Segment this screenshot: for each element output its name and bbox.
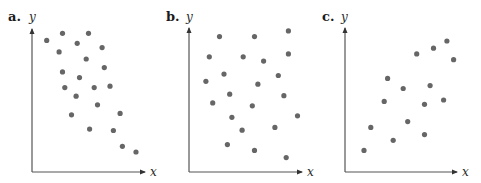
scatter-plots-figure: a. y x b. y x c. y x [0, 0, 481, 183]
data-point-c-11 [414, 51, 419, 56]
data-point-b-7 [221, 72, 226, 77]
scatter-panel-b: b. y x [166, 9, 314, 179]
data-point-b-19 [225, 142, 230, 147]
y-axis-label-a: y [28, 10, 36, 24]
data-point-b-0 [217, 34, 222, 39]
x-axis-label-a: x [150, 165, 157, 179]
data-point-a-15 [69, 112, 74, 117]
data-point-c-9 [428, 83, 433, 88]
data-point-c-4 [385, 76, 390, 81]
data-point-a-18 [111, 128, 116, 133]
data-point-b-21 [284, 155, 289, 160]
data-point-c-6 [405, 119, 410, 124]
panel-label-a: a. [8, 9, 21, 24]
data-point-b-10 [276, 73, 281, 78]
data-point-c-0 [361, 148, 366, 153]
data-point-b-15 [229, 115, 234, 120]
panel-label-c: c. [322, 9, 334, 24]
data-point-a-16 [118, 111, 123, 116]
data-point-a-3 [57, 49, 62, 54]
data-point-c-2 [391, 138, 396, 143]
data-point-a-1 [60, 31, 65, 36]
data-point-b-18 [272, 125, 277, 130]
data-point-a-2 [86, 31, 91, 36]
scatter-panel-c: c. y x [322, 9, 469, 179]
data-point-b-12 [210, 100, 215, 105]
data-point-a-13 [74, 94, 79, 99]
data-point-b-5 [261, 59, 266, 64]
data-point-b-4 [241, 54, 246, 59]
data-point-a-14 [95, 102, 100, 107]
x-axis-arrow-icon [452, 170, 458, 175]
data-point-b-13 [250, 103, 255, 108]
data-point-a-5 [100, 45, 105, 50]
data-point-a-0 [44, 38, 49, 43]
data-point-c-14 [451, 57, 456, 62]
data-point-c-10 [441, 97, 446, 102]
y-axis-arrow-icon [343, 27, 348, 33]
data-point-a-4 [75, 41, 80, 46]
y-axis-arrow-icon [187, 27, 192, 33]
y-axis-label-b: y [185, 10, 193, 24]
data-point-a-6 [84, 56, 89, 61]
data-point-b-17 [240, 128, 245, 133]
data-point-a-7 [60, 69, 65, 74]
data-point-b-6 [286, 51, 291, 56]
y-axis-label-c: y [340, 10, 348, 24]
data-point-c-13 [444, 38, 449, 43]
data-point-c-3 [382, 99, 387, 104]
data-point-b-11 [227, 92, 232, 97]
x-axis-arrow-icon [297, 170, 303, 175]
data-point-a-17 [87, 127, 92, 132]
data-point-c-1 [368, 125, 373, 130]
data-point-b-20 [252, 148, 257, 153]
data-point-b-8 [203, 79, 208, 84]
data-point-a-19 [120, 144, 125, 149]
data-point-a-11 [92, 85, 97, 90]
x-axis-label-c: x [462, 165, 469, 179]
data-point-c-5 [401, 86, 406, 91]
data-point-b-2 [286, 28, 291, 33]
data-point-a-9 [77, 75, 82, 80]
scatter-panel-a: a. y x [8, 9, 157, 179]
data-point-b-16 [295, 113, 300, 118]
data-point-b-9 [255, 82, 260, 87]
data-point-c-12 [431, 46, 436, 51]
data-point-c-7 [422, 132, 427, 137]
data-point-a-8 [102, 65, 107, 70]
x-axis-label-b: x [307, 165, 314, 179]
y-axis-arrow-icon [30, 28, 35, 34]
data-point-b-3 [207, 54, 212, 59]
data-point-c-8 [422, 102, 427, 107]
data-point-b-1 [252, 34, 257, 39]
panel-label-b: b. [166, 9, 180, 24]
data-point-a-10 [62, 85, 67, 90]
data-point-a-20 [133, 149, 138, 154]
x-axis-arrow-icon [140, 170, 146, 175]
data-point-a-12 [107, 84, 112, 89]
data-point-b-14 [281, 93, 286, 98]
